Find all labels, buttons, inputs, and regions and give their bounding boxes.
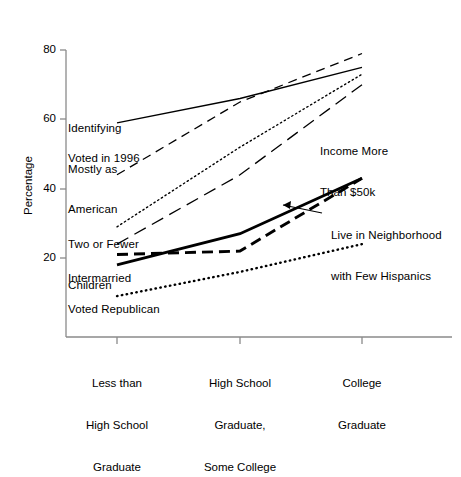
x-category-label-high-school-graduate-some-college: High School Graduate, Some College <box>180 348 300 477</box>
series-label-intermarried: Intermarried <box>68 272 131 286</box>
y-tick-label-60: 60 <box>24 112 56 124</box>
series-label-line-0: Two or Fewer <box>68 238 139 252</box>
x-category-label-less-than-high-school-graduate: Less than High School Graduate <box>57 348 177 477</box>
x-category-label-college-graduate: College Graduate <box>302 348 422 460</box>
series-label-live-in-neighborhood-few-hispanics: Live in Neighborhood with Few Hispanics <box>331 202 442 310</box>
x-category-line-0: College <box>302 376 422 390</box>
series-label-line-1: Than $50k <box>320 186 388 200</box>
series-label-line-0: Live in Neighborhood <box>331 229 442 243</box>
series-label-voted-in-1996: Voted in 1996 <box>68 152 140 166</box>
y-tick-label-40: 40 <box>24 182 56 194</box>
x-category-line-0: Less than <box>57 376 177 390</box>
x-category-line-1: Graduate, <box>180 418 300 432</box>
series-label-line-0: Income More <box>320 145 388 159</box>
x-category-line-1: Graduate <box>302 418 422 432</box>
x-category-line-1: High School <box>57 418 177 432</box>
y-tick-label-20: 20 <box>24 251 56 263</box>
x-category-line-0: High School <box>180 376 300 390</box>
x-category-line-2: Some College <box>180 460 300 474</box>
leader-arrow-live-in-neighborhood <box>283 201 291 209</box>
series-label-line-1: with Few Hispanics <box>331 270 442 284</box>
x-category-line-2: Graduate <box>57 460 177 474</box>
series-line-identifying-mostly-as-american <box>117 67 362 123</box>
y-tick-label-80: 80 <box>24 43 56 55</box>
series-label-line-0: Identifying <box>68 122 122 136</box>
series-label-voted-republican: Voted Republican <box>68 303 160 317</box>
